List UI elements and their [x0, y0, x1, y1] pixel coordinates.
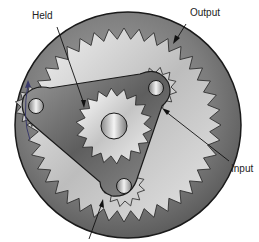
- input-label: Input: [231, 164, 253, 174]
- held-label: Held: [32, 11, 53, 21]
- planetary-gear-diagram: [0, 0, 259, 242]
- output-label: Output: [190, 8, 220, 18]
